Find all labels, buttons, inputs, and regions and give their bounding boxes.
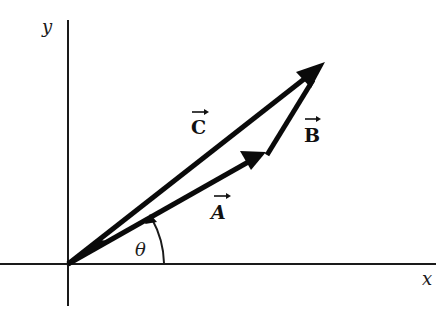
origin-wedge bbox=[66, 240, 108, 266]
vector-a-label: A bbox=[209, 193, 231, 223]
vector-b-label: B bbox=[304, 116, 321, 146]
svg-text:A: A bbox=[209, 201, 226, 223]
vector-c-label: C bbox=[191, 109, 209, 138]
svg-text:B: B bbox=[304, 124, 320, 146]
theta-arc bbox=[152, 219, 164, 263]
vector-c-shaft bbox=[68, 76, 308, 264]
x-axis-label: x bbox=[422, 268, 432, 289]
vector-b-overarrow-head-icon bbox=[316, 116, 321, 122]
y-axis-label: y bbox=[41, 16, 53, 37]
theta-label: θ bbox=[135, 239, 146, 260]
vector-c bbox=[68, 62, 325, 264]
vector-addition-diagram: y x C B A θ bbox=[0, 0, 447, 327]
svg-text:C: C bbox=[191, 116, 206, 138]
vector-a-overarrow-head-icon bbox=[226, 193, 231, 199]
vector-c-overarrow-head-icon bbox=[204, 109, 209, 115]
